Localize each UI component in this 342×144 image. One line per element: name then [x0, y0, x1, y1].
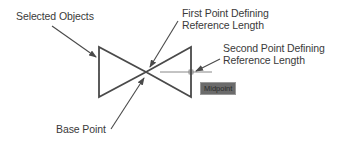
first-point-label-line1: First Point Defining	[182, 8, 269, 19]
first-point-label-line2: Reference Length	[182, 20, 264, 31]
midpoint-snap-tooltip: Midpoint	[200, 82, 236, 95]
first-point-arrow	[150, 21, 178, 67]
base-point-label: Base Point	[56, 124, 106, 135]
base-point-arrow	[111, 78, 144, 129]
diagram-canvas: Selected Objects First Point Defining Re…	[0, 0, 342, 144]
second-point-arrow	[196, 59, 220, 71]
second-point-label-line1: Second Point Defining	[223, 43, 325, 54]
selected-objects-label: Selected Objects	[16, 11, 94, 22]
second-point-label-line2: Reference Length	[223, 55, 305, 66]
selected-objects-arrow	[52, 26, 96, 57]
